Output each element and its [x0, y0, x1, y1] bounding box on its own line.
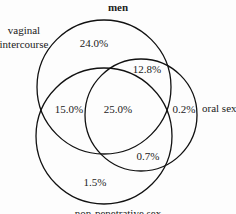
- region-all-three: 25.0%: [104, 103, 132, 115]
- region-vaginal-only: 24.0%: [80, 37, 108, 49]
- region-nonpen-only: 1.5%: [84, 176, 107, 188]
- chart-title: men: [108, 1, 128, 13]
- region-vaginal-oral: 12.8%: [133, 63, 161, 75]
- region-oral-only: 0.2%: [173, 103, 196, 115]
- set-label-vaginal-line1: vaginal: [8, 24, 40, 36]
- set-label-vaginal-line2: intercourse: [0, 38, 49, 50]
- set-label-oral-sex: oral sex: [202, 102, 236, 114]
- venn-diagram: men vaginal intercourse oral sex non-pen…: [0, 0, 236, 214]
- set-label-non-penetrative: non-penetrative sex: [75, 207, 162, 214]
- region-oral-nonpen: 0.7%: [137, 150, 160, 162]
- region-vaginal-nonpen: 15.0%: [55, 103, 83, 115]
